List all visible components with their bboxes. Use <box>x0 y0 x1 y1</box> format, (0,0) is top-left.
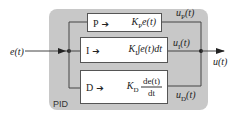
p-block-label: P➔ <box>93 17 109 28</box>
ui-signal-label: uI(t) <box>173 37 190 51</box>
input-signal-label: e(t) <box>10 46 24 57</box>
ud-signal-label: uD(t) <box>176 89 196 103</box>
arrow-right-icon: ➔ <box>102 18 110 28</box>
i-block-label: I➔ <box>86 45 100 56</box>
arrow-right-icon: ➔ <box>92 46 100 56</box>
i-block: I➔ KI∫e(t)dt <box>80 37 168 63</box>
d-block-label: D➔ <box>86 82 104 93</box>
d-expression: KD de(t)dt <box>127 76 162 99</box>
p-block: P➔ KPe(t) <box>87 13 162 32</box>
up-signal-label: uP(t) <box>176 7 194 21</box>
arrow-right-icon: ➔ <box>96 83 104 93</box>
output-signal-label: u(t) <box>213 56 227 67</box>
p-expression: KPe(t) <box>132 16 156 30</box>
derivative-fraction: de(t)dt <box>141 76 162 99</box>
d-block: D➔ KD de(t)dt <box>80 70 168 104</box>
i-expression: KI∫e(t)dt <box>129 43 162 57</box>
pid-title-label: PID <box>53 99 68 109</box>
pid-controller-diagram: e(t) P➔ KPe(t) I➔ KI∫e(t)dt D➔ KD de(t)d… <box>0 0 242 115</box>
